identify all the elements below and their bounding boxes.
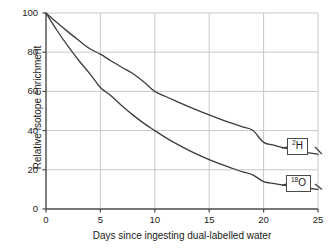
y-axis-label: Relative isotope enrichment [32,8,43,208]
x-tick-label: 5 [87,214,113,225]
y-tick-label: 0 [8,203,38,214]
deuterium-symbol: H [296,140,303,151]
oxygen18-symbol: O [298,177,306,188]
gridlines [46,13,318,209]
y-tick-label: 100 [8,7,38,18]
x-axis-label: Days since ingesting dual-labelled water [46,230,318,241]
x-tick-label: 15 [196,214,222,225]
y-tick-label: 80 [8,46,38,57]
x-tick-label: 25 [305,214,331,225]
curve-2H [46,13,318,154]
x-tick-label: 10 [142,214,168,225]
axis-lines [46,13,318,209]
series-label-oxygen18: 18O [286,175,311,192]
x-tick-label: 20 [251,214,277,225]
chart-figure: Relative isotope enrichment Days since i… [0,0,334,248]
tick-marks [43,13,319,213]
series-label-deuterium: 2H [287,138,308,155]
curve-18O [46,13,318,189]
y-tick-label: 20 [8,164,38,175]
plot-area [0,0,334,248]
x-tick-label: 0 [33,214,59,225]
data-curves [46,13,318,189]
y-tick-label: 60 [8,85,38,96]
y-tick-label: 40 [8,125,38,136]
